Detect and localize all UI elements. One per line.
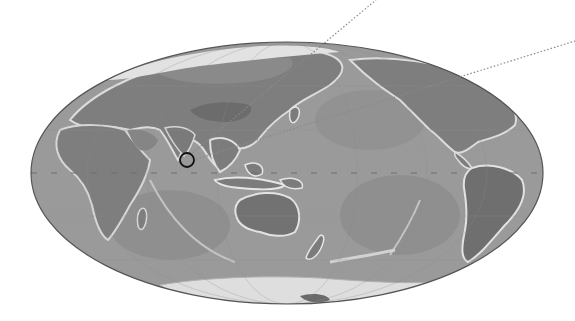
globe bbox=[31, 42, 543, 312]
land-madagascar bbox=[137, 208, 146, 229]
land-antarctica bbox=[160, 277, 450, 312]
world-map bbox=[0, 0, 575, 321]
ocean-basin-pacific bbox=[340, 175, 460, 255]
